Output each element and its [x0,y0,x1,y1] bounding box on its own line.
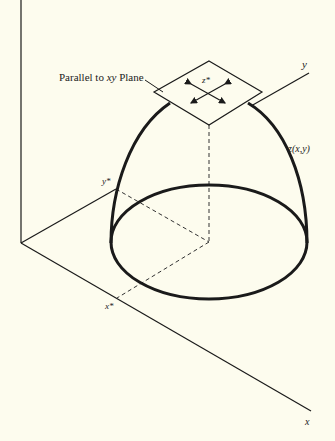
diagram-canvas: Parallel to xy Plane z* y z(x,y) y* x* x [0,0,335,441]
y-star-label: y* [101,176,111,186]
x-axis-label: x [304,416,310,427]
plane-label: Parallel to xy Plane [59,71,144,83]
plane-label-leader [145,80,163,92]
z-star-label: z* [201,75,211,85]
y-axis-segment-1 [21,189,116,243]
axes [21,0,311,411]
x-star-projection [117,242,209,298]
surface-diagram: Parallel to xy Plane z* y z(x,y) y* x* x [0,0,335,441]
surface-label: z(x,y) [287,143,311,155]
y-axis-segment-2 [251,73,309,106]
y-axis-label: y [301,58,307,70]
x-star-label: x* [104,301,114,311]
y-star-projection [116,189,209,242]
